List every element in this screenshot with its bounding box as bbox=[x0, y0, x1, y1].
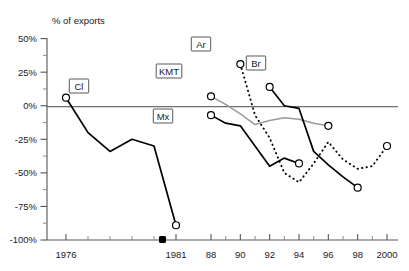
y-tick-label: 0% bbox=[23, 100, 37, 111]
data-point-marker-br bbox=[354, 184, 361, 191]
series-line-kmt bbox=[211, 96, 328, 126]
x-tick-label: 90 bbox=[235, 249, 246, 260]
series-tag-label: Ar bbox=[196, 39, 206, 50]
series-tag-br: Br bbox=[246, 56, 265, 70]
x-tick-label: 1981 bbox=[165, 249, 186, 260]
x-tick-label: 1976 bbox=[55, 249, 76, 260]
line-chart: % of exports 50%25%0%-25%-50%-75%-100% 1… bbox=[0, 0, 409, 271]
x-tick-label: 98 bbox=[352, 249, 363, 260]
x-tick-label: 94 bbox=[294, 249, 305, 260]
y-tick-label: -50% bbox=[15, 167, 38, 178]
series-endpoint-markers bbox=[63, 61, 391, 229]
series-tag-label: Br bbox=[251, 58, 261, 69]
y-tick-label: -75% bbox=[15, 201, 38, 212]
x-tick-label: 96 bbox=[323, 249, 334, 260]
series-tag-cl: Cl bbox=[69, 79, 88, 93]
chart-container: % of exports 50%25%0%-25%-50%-75%-100% 1… bbox=[0, 0, 409, 271]
series-line-mx bbox=[211, 115, 299, 166]
data-point-marker-ar bbox=[384, 143, 391, 150]
series-tag-mx: Mx bbox=[153, 109, 172, 123]
y-axis-ticks: 50%25%0%-25%-50%-75%-100% bbox=[10, 33, 47, 245]
x-tick-label: 2000 bbox=[376, 249, 397, 260]
x-tick-label: 92 bbox=[264, 249, 275, 260]
series-layer bbox=[66, 64, 387, 225]
y-axis-label: % of exports bbox=[52, 15, 105, 26]
y-tick-label: 50% bbox=[18, 33, 38, 44]
y-tick-label: -100% bbox=[10, 234, 38, 245]
y-tick-label: 25% bbox=[18, 67, 38, 78]
data-point-marker-kmt bbox=[208, 93, 215, 100]
series-tag-label: Cl bbox=[75, 81, 84, 92]
y-tick-label: -25% bbox=[15, 134, 38, 145]
data-point-marker-mx bbox=[208, 112, 215, 119]
series-tag-label: KMT bbox=[159, 66, 179, 77]
data-point-marker-cl bbox=[173, 222, 180, 229]
axis-break-marker bbox=[160, 237, 166, 243]
series-tag-label: Mx bbox=[157, 111, 170, 122]
x-tick-label: 88 bbox=[206, 249, 217, 260]
data-point-marker-ar bbox=[237, 61, 244, 68]
data-point-marker-mx bbox=[296, 160, 303, 167]
data-point-marker-kmt bbox=[325, 122, 332, 129]
x-axis-ticks: 197619818890929496982000 bbox=[55, 234, 397, 260]
series-tag-ar: Ar bbox=[191, 37, 210, 51]
series-line-br bbox=[270, 87, 358, 188]
series-tag-kmt: KMT bbox=[156, 64, 182, 78]
data-point-marker-br bbox=[266, 83, 273, 90]
series-label-tags: ClKMTMxArBr bbox=[69, 37, 265, 123]
data-point-marker-cl bbox=[63, 94, 70, 101]
